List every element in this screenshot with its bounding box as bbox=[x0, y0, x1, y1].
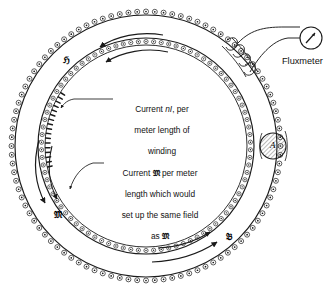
field-label-B: 𝔅 bbox=[226, 232, 233, 243]
annotation-current-M: Current 𝔐 per meter length which would s… bbox=[106, 158, 214, 252]
annotation-current-M-line4-prefix: as bbox=[151, 231, 162, 241]
annotation-current-M-line4: as 𝔐 bbox=[106, 231, 214, 241]
annotation-current-nI-line2: meter length of bbox=[116, 125, 208, 135]
annotation-current-M-symbol: 𝔐 bbox=[153, 168, 160, 178]
annotation-current-M-line3: set up the same field bbox=[106, 210, 214, 220]
leader-current-nI bbox=[61, 99, 113, 108]
cross-section-label-A: A bbox=[270, 140, 276, 150]
field-label-H: ℌ bbox=[63, 55, 70, 65]
annotation-current-M-line1: Current 𝔐 per meter bbox=[106, 168, 214, 178]
annotation-current-M-line2: length which would bbox=[106, 189, 214, 199]
annotation-current-nI-suffix: , per bbox=[172, 104, 189, 114]
annotation-current-M-prefix: Current bbox=[123, 168, 153, 178]
annotation-current-nI-line3: winding bbox=[116, 146, 208, 156]
arrow-top-inner-current bbox=[106, 50, 168, 62]
fluxmeter-lead-upper bbox=[238, 27, 300, 43]
annotation-current-M-line4-symbol: 𝔐 bbox=[162, 231, 169, 241]
annotation-current-nI-prefix: Current bbox=[135, 104, 165, 114]
fluxmeter-lead-lower bbox=[250, 38, 300, 72]
annotation-current-nI-line1: Current nI, per bbox=[116, 104, 208, 114]
fluxmeter-label: Fluxmeter bbox=[282, 56, 323, 66]
field-label-M: 𝔐 bbox=[54, 210, 62, 221]
rowland-ring-figure: Current nI, per meter length of winding … bbox=[0, 0, 336, 292]
leader-current-M bbox=[70, 163, 104, 189]
annotation-current-M-suffix: per meter bbox=[160, 168, 198, 178]
annotation-current-nI: Current nI, per meter length of winding bbox=[116, 94, 208, 167]
